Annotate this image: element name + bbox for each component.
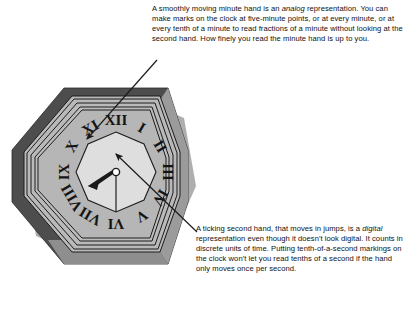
callout-analog: A smoothly moving minute hand is an anal…: [152, 4, 404, 44]
numeral-III: III: [160, 163, 176, 181]
numeral-VI: VI: [108, 216, 125, 232]
callout-analog-before: A smoothly moving minute hand is an: [152, 4, 282, 13]
callout-analog-emphasis: analog: [282, 4, 305, 13]
clock-center-hub: [112, 168, 119, 175]
callout-digital-emphasis: digital: [362, 224, 382, 233]
clock-analog-digital-figure: XII I II III IV V VI VII VIII IX X XI: [0, 0, 407, 311]
callout-digital: A ticking second hand, that moves in jum…: [196, 224, 404, 274]
callout-digital-before: A ticking second hand, that moves in jum…: [196, 224, 362, 233]
numeral-IX: IX: [56, 163, 72, 180]
